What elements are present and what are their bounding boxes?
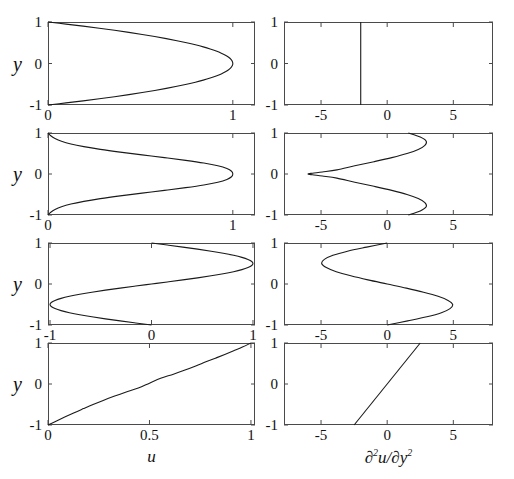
- plot-panel-row4-left: [48, 343, 255, 425]
- x-tick-label: 0: [148, 327, 156, 344]
- plot-panel-row3-left: [48, 243, 255, 325]
- y-tick-label: -1: [266, 417, 279, 434]
- x-tick-label: 0: [44, 427, 52, 444]
- x-tick-label: 5: [450, 217, 458, 234]
- x-axis-title-u: u: [147, 447, 156, 467]
- x-tick-label: 0: [383, 427, 391, 444]
- x-tick-label: 5: [450, 107, 458, 124]
- plot-panel-row2-left: [48, 133, 255, 215]
- x-tick-label: 1: [229, 107, 237, 124]
- x-axis-title-d2u-dy2: ∂2u/∂y2: [365, 447, 413, 468]
- x-tick-label: 0: [383, 107, 391, 124]
- x-tick-label: 1: [229, 217, 237, 234]
- y-tick-label: 0: [271, 276, 279, 293]
- x-tick-label: -5: [315, 217, 328, 234]
- plot-curve-row4-left: [48, 343, 255, 425]
- y-tick-label: 0: [271, 376, 279, 393]
- y-tick-label: -1: [30, 317, 43, 334]
- y-tick-label: -1: [266, 207, 279, 224]
- plot-curve-row3-right: [284, 243, 493, 325]
- x-tick-label: 0: [383, 327, 391, 344]
- x-tick-label: -5: [315, 427, 328, 444]
- x-tick-label: 0: [44, 217, 52, 234]
- y-axis-title: y: [13, 373, 22, 396]
- x-tick-label: 0: [383, 217, 391, 234]
- y-tick-label: -1: [30, 417, 43, 434]
- plot-curve-row4-right: [284, 343, 493, 425]
- y-tick-label: 0: [35, 376, 43, 393]
- y-tick-label: 1: [35, 125, 43, 142]
- x-tick-label: 1: [249, 327, 257, 344]
- x-tick-label: -5: [315, 107, 328, 124]
- y-tick-label: 1: [35, 335, 43, 352]
- figure-panel-grid: -101y01-101-505-101y01-101-505-101y-101-…: [0, 0, 514, 479]
- y-axis-title: y: [13, 52, 22, 75]
- y-axis-title: y: [13, 273, 22, 296]
- y-axis-title: y: [13, 163, 22, 186]
- y-tick-label: 0: [35, 166, 43, 183]
- plot-curve-row3-left: [48, 243, 255, 325]
- y-tick-label: 1: [271, 125, 279, 142]
- plot-curve-row2-right: [284, 133, 493, 215]
- y-tick-label: 1: [271, 335, 279, 352]
- x-tick-label: 1: [247, 427, 255, 444]
- plot-panel-row4-right: [284, 343, 493, 425]
- x-tick-label: 0: [44, 107, 52, 124]
- y-tick-label: 0: [271, 55, 279, 72]
- y-tick-label: 1: [35, 14, 43, 31]
- plot-panel-row1-left: [48, 22, 255, 105]
- y-tick-label: 1: [271, 235, 279, 252]
- plot-curve-row1-left: [48, 22, 255, 105]
- y-tick-label: 0: [35, 55, 43, 72]
- x-tick-label: -1: [44, 327, 57, 344]
- x-tick-label: 0.5: [140, 427, 159, 444]
- plot-panel-row1-right: [284, 22, 493, 105]
- y-tick-label: -1: [266, 317, 279, 334]
- plot-panel-row3-right: [284, 243, 493, 325]
- y-tick-label: 0: [35, 276, 43, 293]
- y-tick-label: -1: [30, 207, 43, 224]
- plot-panel-row2-right: [284, 133, 493, 215]
- plot-curve-row2-left: [48, 133, 255, 215]
- x-tick-label: 5: [450, 427, 458, 444]
- y-tick-label: 1: [35, 235, 43, 252]
- x-tick-label: 5: [450, 327, 458, 344]
- y-tick-label: -1: [30, 97, 43, 114]
- y-tick-label: 1: [271, 14, 279, 31]
- y-tick-label: 0: [271, 166, 279, 183]
- y-tick-label: -1: [266, 97, 279, 114]
- x-tick-label: -5: [315, 327, 328, 344]
- plot-curve-row1-right: [284, 22, 493, 105]
